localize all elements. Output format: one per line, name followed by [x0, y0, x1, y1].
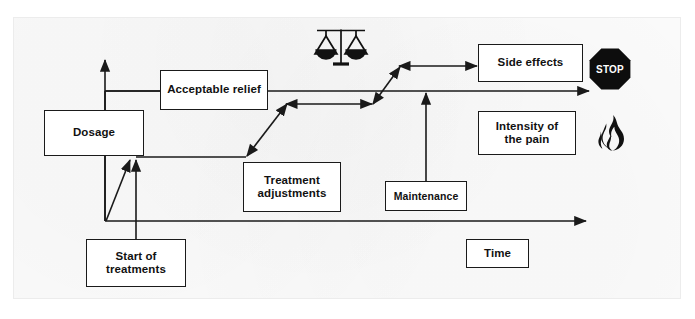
node-dosage[interactable]: Dosage	[44, 110, 144, 156]
titration-step-3	[373, 67, 400, 104]
node-side-effects[interactable]: Side effects	[478, 44, 583, 82]
node-intensity-label-line1: Intensity of	[496, 120, 559, 133]
stop-sign-icon: STOP	[589, 48, 631, 90]
node-treatment-adjustments[interactable]: Treatment adjustments	[243, 162, 341, 212]
node-treatment-adjustments-label-line2: adjustments	[258, 187, 327, 200]
titration-step-2	[247, 104, 287, 156]
balance-scales-icon	[312, 27, 370, 70]
diagram-canvas: Dosage Acceptable relief Treatment adjus…	[0, 0, 695, 319]
node-treatment-adjustments-label-line1: Treatment	[258, 174, 327, 187]
flame-icon	[597, 114, 627, 154]
node-intensity-of-the-pain[interactable]: Intensity of the pain	[478, 111, 576, 155]
node-acceptable-relief-label: Acceptable relief	[167, 83, 261, 96]
node-dosage-label: Dosage	[73, 126, 115, 139]
node-side-effects-label: Side effects	[498, 56, 564, 69]
node-start-of-treatments[interactable]: Start of treatments	[86, 239, 186, 287]
node-maintenance-label: Maintenance	[394, 190, 459, 202]
node-time-label: Time	[484, 247, 511, 260]
node-acceptable-relief[interactable]: Acceptable relief	[160, 70, 268, 110]
node-maintenance[interactable]: Maintenance	[385, 181, 467, 211]
node-start-of-treatments-label-line1: Start of	[106, 250, 166, 263]
node-time[interactable]: Time	[466, 239, 529, 268]
node-start-of-treatments-label-line2: treatments	[106, 263, 166, 276]
node-intensity-label-line2: the pain	[496, 133, 559, 146]
titration-climb-1	[106, 160, 130, 221]
